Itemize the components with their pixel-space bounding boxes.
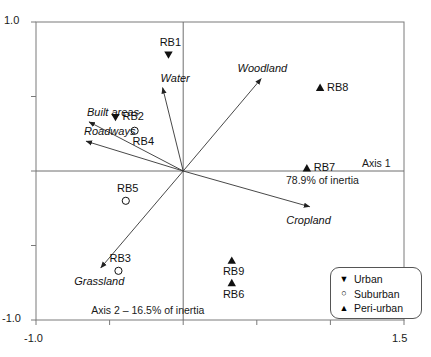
x-axis-left-tick-label: -1.0 [24, 332, 43, 344]
legend-item-peri-urban: ▲ Peri-urban [337, 301, 421, 316]
vector-label-woodland: Woodland [238, 62, 288, 74]
y-axis-top-tick-label: 1.0 [4, 14, 19, 26]
legend-label-peri-urban: Peri-urban [351, 302, 403, 314]
triangle-down-icon: ▼ [337, 275, 351, 284]
legend-label-urban: Urban [351, 273, 383, 285]
triangle-up-icon: ▲ [337, 304, 351, 313]
vector-label-built-areas: Built areas [87, 106, 139, 118]
legend-item-urban: ▼ Urban [337, 272, 421, 287]
point-label-rb7: RB7 [314, 161, 335, 173]
point-label-rb8: RB8 [327, 81, 348, 93]
point-label-rb6: RB6 [223, 288, 244, 300]
point-label-rb3: RB3 [110, 252, 131, 264]
legend-item-suburban: ○ Suburban [337, 287, 421, 302]
point-label-rb5: RB5 [117, 182, 138, 194]
vector-label-grassland: Grassland [74, 275, 124, 287]
axis1-inertia-label: 78.9% of inertia [286, 174, 359, 186]
site-points [111, 51, 324, 286]
x-axis-right-tick-label: 1.5 [392, 332, 407, 344]
point-label-rb4: RB4 [133, 135, 154, 147]
y-axis-bottom-tick-label: -1.0 [2, 312, 21, 324]
vector-label-roadways: Roadways [84, 125, 135, 137]
legend: ▼ Urban ○ Suburban ▲ Peri-urban [330, 267, 422, 319]
axis1-label: Axis 1 [362, 157, 391, 169]
legend-label-suburban: Suburban [351, 288, 400, 300]
vector-label-cropland: Cropland [286, 214, 331, 226]
circle-open-icon: ○ [337, 289, 351, 298]
biplot-figure: 1.0 -1.0 -1.0 1.5 Axis 1 78.9% of inerti… [0, 0, 431, 357]
axis2-label: Axis 2 – 16.5% of inertia [91, 304, 204, 316]
point-label-rb1: RB1 [160, 36, 181, 48]
vector-label-water: Water [161, 72, 190, 84]
point-label-rb9: RB9 [223, 265, 244, 277]
